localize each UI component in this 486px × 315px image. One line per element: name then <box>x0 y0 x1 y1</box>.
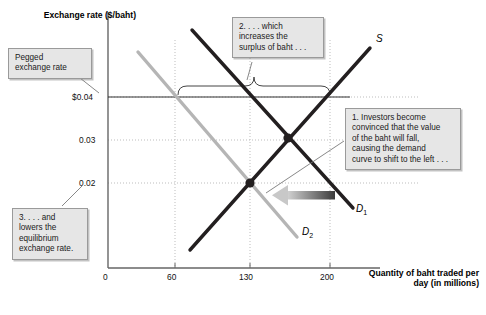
supply-curve-label: S <box>376 33 383 44</box>
y-axis-title: Exchange rate ($/baht) <box>42 10 136 20</box>
demand-curve-d1-label: D1 <box>356 203 367 216</box>
x-tick-label-60: 60 <box>167 272 176 282</box>
y-tick-label-0-04: $0.04 <box>72 92 93 102</box>
demand-curve-d2-label: D2 <box>302 226 313 239</box>
demand-shift-arrow <box>272 185 335 206</box>
equilibrium-point-new <box>245 178 254 187</box>
y-tick-label-0-02: 0.02 <box>79 178 95 188</box>
callout-step-2-surplus: 2. . . . which increases the surplus of … <box>232 17 324 58</box>
callout-leader-lines <box>62 62 344 206</box>
y-tick-label-0-03: 0.03 <box>79 135 95 145</box>
surplus-bracket <box>178 77 330 95</box>
demand-d1-subscript: 1 <box>363 209 367 216</box>
x-axis-title: Quantity of baht traded per day (in mill… <box>355 268 479 288</box>
exchange-rate-diagram: Exchange rate ($/baht) Quantity of baht … <box>0 0 486 315</box>
x-tick-label-0: 0 <box>103 272 108 282</box>
demand-d2-subscript: 2 <box>309 232 313 239</box>
demand-curve-d2 <box>138 52 297 237</box>
equilibrium-point-original <box>283 133 292 142</box>
x-tick-label-130: 130 <box>239 272 253 282</box>
callout-pegged-exchange-rate: Pegged exchange rate <box>8 48 92 79</box>
callout-step-1-investors: 1. Investors become convinced that the v… <box>345 108 461 170</box>
x-tick-label-200: 200 <box>320 272 334 282</box>
callout-step-3-lowers: 3. . . . and lowers the equilibrium exch… <box>12 208 88 260</box>
